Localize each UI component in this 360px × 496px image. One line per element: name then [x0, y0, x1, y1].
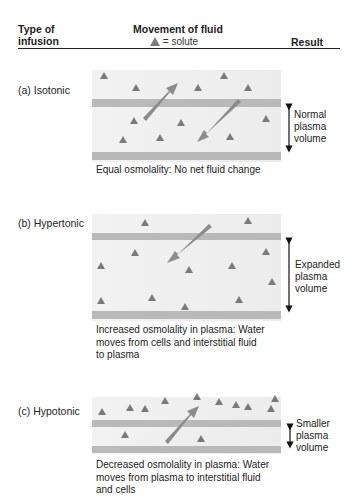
caption-line: and cells — [96, 484, 269, 496]
membrane-band-bottom — [92, 446, 281, 453]
caption-line: Decreased osmolality in plasma: Water — [96, 459, 269, 472]
panel-background — [92, 214, 281, 321]
panel-a-result: Normal plasma volume — [294, 109, 326, 145]
membrane-band-top — [92, 233, 281, 240]
panel-a-label: (a) Isotonic — [18, 84, 70, 96]
panel-a-diagram — [92, 70, 289, 162]
caption-line: to plasma — [96, 349, 265, 362]
panel-b-caption: Increased osmolality in plasma: Water mo… — [96, 324, 265, 362]
panel-c-result: Smaller plasma volume — [296, 418, 330, 454]
result-line: plasma — [295, 271, 340, 283]
panel-c-label: (c) Hypotonic — [18, 405, 80, 417]
result-line: plasma — [296, 430, 330, 442]
panel-c-caption: Decreased osmolality in plasma: Water mo… — [96, 459, 269, 496]
panel-a-caption: Equal osmolality: No net fluid change — [96, 164, 261, 177]
result-line: Expanded — [295, 259, 340, 271]
membrane-band-bottom — [92, 152, 281, 160]
caption-line: moves from cells and interstitial fluid — [96, 337, 265, 350]
caption-line: Increased osmolality in plasma: Water — [96, 324, 265, 337]
membrane-band-top — [92, 420, 281, 427]
caption-line: moves from plasma to interstitial fluid — [96, 472, 269, 485]
panel-background — [92, 70, 281, 162]
result-line: volume — [295, 283, 340, 295]
result-line: Normal — [294, 109, 326, 121]
caption-line: Equal osmolality: No net fluid change — [96, 164, 261, 177]
panel-b-label: (b) Hypertonic — [18, 217, 84, 229]
membrane-band-top — [92, 99, 281, 107]
panel-b-result: Expanded plasma volume — [295, 259, 340, 295]
result-line: Smaller — [296, 418, 330, 430]
result-line: volume — [296, 442, 330, 454]
panel-c-diagram — [92, 393, 290, 454]
result-line: volume — [294, 133, 326, 145]
membrane-band-bottom — [92, 311, 281, 319]
result-line: plasma — [294, 121, 326, 133]
panel-b-diagram — [92, 214, 289, 321]
